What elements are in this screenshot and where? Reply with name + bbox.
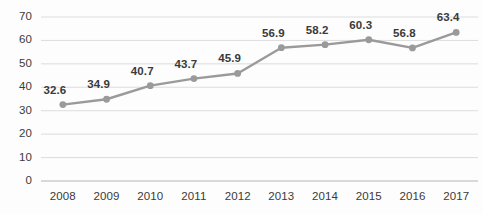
x-axis-tick-label: 2013	[259, 191, 303, 203]
data-point-label: 45.9	[212, 53, 248, 65]
y-axis-tick-label: 70	[4, 11, 32, 23]
data-point-label: 63.4	[430, 12, 466, 24]
data-point-label: 56.9	[255, 28, 291, 40]
data-point-label: 60.3	[343, 20, 379, 32]
x-axis-tick-label: 2014	[303, 191, 347, 203]
series-line	[63, 32, 456, 104]
data-point-marker	[365, 36, 372, 43]
data-point-label: 56.8	[386, 28, 422, 40]
x-axis-tick-label: 2012	[216, 191, 260, 203]
y-axis-tick-label: 30	[4, 105, 32, 117]
data-point-marker	[453, 29, 460, 36]
y-axis-tick-label: 40	[4, 81, 32, 93]
x-axis-tick-label: 2017	[434, 191, 478, 203]
y-axis-tick-label: 50	[4, 58, 32, 70]
y-axis-tick-label: 60	[4, 34, 32, 46]
data-point-marker	[409, 45, 416, 52]
y-axis-tick-label: 0	[4, 175, 32, 187]
y-axis-tick-label: 10	[4, 152, 32, 164]
x-axis-tick-label: 2009	[85, 191, 129, 203]
x-axis-tick-label: 2008	[41, 191, 85, 203]
data-point-label: 58.2	[299, 25, 335, 37]
data-point-marker	[234, 70, 241, 77]
data-point-label: 40.7	[124, 66, 160, 78]
x-axis-tick-label: 2010	[128, 191, 172, 203]
data-point-label: 43.7	[168, 59, 204, 71]
line-chart: 010203040506070 200820092010201120122013…	[0, 0, 483, 214]
data-point-marker	[103, 96, 110, 103]
data-point-marker	[322, 41, 329, 48]
y-axis-tick-label: 20	[4, 128, 32, 140]
x-axis-tick-label: 2011	[172, 191, 216, 203]
data-point-marker	[59, 101, 66, 108]
data-point-label: 32.6	[37, 85, 73, 97]
x-axis-tick-label: 2015	[347, 191, 391, 203]
data-point-label: 34.9	[81, 79, 117, 91]
data-point-marker	[147, 82, 154, 89]
data-point-marker	[191, 75, 198, 82]
data-point-marker	[278, 44, 285, 51]
x-axis-tick-label: 2016	[390, 191, 434, 203]
